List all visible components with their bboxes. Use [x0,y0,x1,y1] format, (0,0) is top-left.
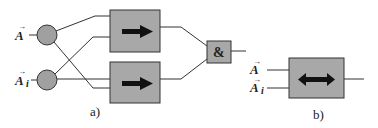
caption-b: b) [313,107,324,122]
diagram-part-a: A → A i → [14,10,246,119]
wire-ai-to-top-block [55,37,110,74]
diagram-part-b: A → A i → b) [249,57,364,122]
svg-text:i: i [26,78,29,89]
wire-top-block-to-gate [160,27,207,46]
bidirectional-block [289,58,344,98]
caption-a: a) [90,104,100,119]
svg-text:→: → [253,75,261,84]
svg-text:→: → [253,57,261,66]
logic-diagram: A → A i → [0,0,378,128]
input-label-a-b: A → [249,57,261,77]
bottom-direction-block [110,62,160,103]
input-label-ai: A i → [14,67,29,89]
top-direction-block [110,10,160,52]
svg-text:→: → [18,67,26,76]
input-label-ai-b: A i → [249,75,264,96]
input-node-a [37,25,57,45]
svg-text:&: & [213,45,225,60]
svg-text:i: i [261,85,264,96]
wire-bottom-block-to-gate [160,59,207,79]
wire-a-to-bottom-block [54,42,110,88]
svg-text:→: → [18,22,26,31]
input-label-a: A → [14,22,26,43]
and-gate: & [207,41,231,63]
wire-a-to-top-block [56,16,110,31]
input-node-ai [37,70,57,90]
